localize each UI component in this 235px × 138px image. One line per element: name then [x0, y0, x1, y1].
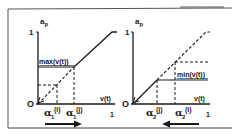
svg-text:(i): (i)	[185, 106, 192, 114]
left-solid-line	[74, 32, 117, 67]
left-y-axis-label: ap	[40, 17, 48, 27]
left-tick-alpha1-j: α 1 (j)	[66, 106, 83, 120]
svg-text:2: 2	[153, 114, 157, 120]
right-y-top-tick: 1	[125, 28, 130, 37]
svg-text:1: 1	[51, 114, 55, 120]
right-tick-alpha2-j: α 2 (j)	[146, 106, 163, 120]
right-panel: ap 1 min(v(t)) v(t) O 1 α 2 (j) α 2 (i)	[122, 17, 210, 128]
right-y-axis-label: ap	[135, 17, 143, 27]
diagram-canvas: ap 1 max(v(t)) v(t) O 1 α 1 (i) α 1 (j)	[0, 0, 235, 138]
left-origin-label: O	[27, 99, 34, 109]
svg-text:(i): (i)	[54, 106, 61, 114]
right-origin-label: O	[122, 99, 129, 109]
right-tick-alpha2-i: α 2 (i)	[175, 106, 192, 120]
left-x-axis-label: v(t)	[100, 95, 111, 103]
svg-text:(j): (j)	[76, 106, 83, 114]
right-solid-line	[133, 80, 157, 104]
left-panel: ap 1 max(v(t)) v(t) O 1 α 1 (i) α 1 (j)	[27, 17, 117, 128]
left-tick-alpha1-i: α 1 (i)	[44, 106, 61, 120]
svg-text:1: 1	[73, 114, 77, 120]
right-x-end-tick: 1	[206, 111, 210, 118]
right-direction-arrow-left-icon	[162, 121, 199, 128]
left-direction-arrow-right-icon	[45, 121, 82, 128]
svg-text:(j): (j)	[156, 106, 163, 114]
svg-text:2: 2	[182, 114, 186, 120]
right-x-axis-label: v(t)	[194, 95, 205, 103]
left-max-annotation: max(v(t))	[39, 58, 69, 66]
left-y-top-tick: 1	[29, 28, 34, 37]
right-min-annotation: min(v(t))	[177, 71, 205, 79]
left-x-end-tick: 1	[110, 111, 114, 118]
